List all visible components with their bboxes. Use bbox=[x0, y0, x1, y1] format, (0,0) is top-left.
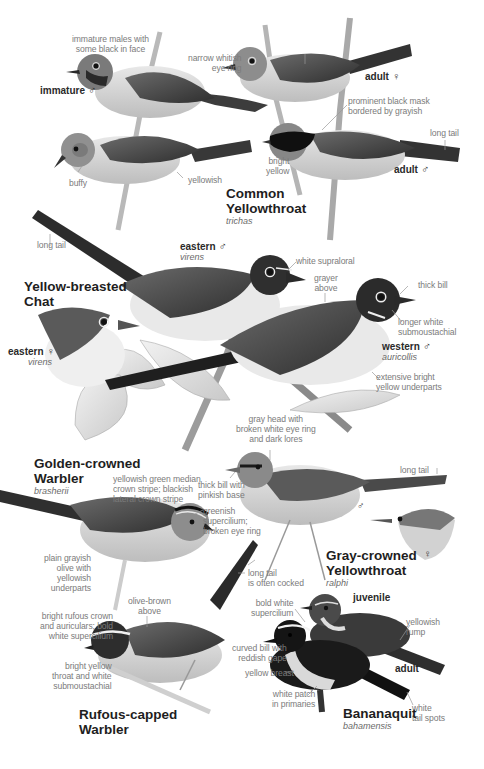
figure-label-gcy-male: ♂ bbox=[357, 500, 365, 511]
annotation-white-supraloral: white supraloral bbox=[296, 256, 355, 266]
annotation-bright-yellow: bright yellow bbox=[266, 156, 289, 176]
annotation-immature-males: immature males with some black in face bbox=[72, 34, 149, 54]
figure-label-immature-male: immature♂ bbox=[40, 84, 96, 96]
field-guide-plate: immature males with some black in face i… bbox=[0, 0, 484, 769]
annotation-extensive-yellow: extensive bright yellow underparts bbox=[376, 372, 442, 392]
annotation-gcy-long-tail: long tail bbox=[400, 465, 429, 475]
figure-label-gcy-female: ♀ bbox=[424, 548, 432, 559]
annotation-black-mask: prominent black mask bordered by grayish bbox=[348, 96, 430, 116]
annotation-yellow-breast: yellow breast bbox=[245, 668, 294, 678]
annotation-curved-bill: curved bill with reddish gape bbox=[232, 643, 287, 663]
annotation-thick-bill: thick bill bbox=[418, 280, 448, 290]
bird-golden-crowned-warbler bbox=[0, 490, 214, 610]
subspecies-eastern-male: virens bbox=[180, 252, 204, 262]
figure-label-eastern-male: eastern♂ bbox=[180, 240, 227, 252]
species-name-common-yellowthroat: Common Yellowthroat trichas bbox=[226, 186, 306, 227]
annotation-bright-yellow-throat: bright yellow throat and white submousta… bbox=[52, 661, 112, 691]
species-name-yellow-breasted-chat: Yellow-breasted Chat bbox=[24, 279, 127, 309]
annotation-rufous-crown: bright rufous crown and auriculars; bold… bbox=[40, 611, 113, 641]
subspecies-eastern-female: virens bbox=[28, 357, 52, 367]
annotation-yellowish-rump: yellowish rump bbox=[406, 617, 440, 637]
species-name-gray-crowned-yellowthroat: Gray-crowned Yellowthroat ralphi bbox=[326, 548, 417, 589]
annotation-narrow-eye-ring: narrow whitish eye ring bbox=[188, 53, 242, 73]
species-name-rufous-capped-warbler: Rufous-capped Warbler bbox=[79, 707, 177, 737]
figure-label-juvenile: juvenile bbox=[353, 592, 390, 603]
subspecies-western-male: auricollis bbox=[382, 352, 417, 362]
figure-label-western-male: western♂ bbox=[382, 340, 431, 352]
annotation-olive-brown-above: olive-brown above bbox=[128, 596, 171, 616]
annotation-plain-grayish-olive: plain grayish olive with yellowish under… bbox=[44, 553, 91, 593]
figure-label-adult-male: adult♂ bbox=[394, 163, 429, 175]
annotation-longer-submoustachial: longer white submoustachial bbox=[398, 317, 456, 337]
figure-label-adult-female: adult♀ bbox=[365, 70, 400, 82]
annotation-yellowish: yellowish bbox=[188, 175, 222, 185]
annotation-white-patch-primaries: white patch in primaries bbox=[272, 689, 315, 709]
annotation-crown-stripe: yellowish green median crown stripe; bla… bbox=[113, 474, 201, 504]
figure-label-eastern-female: eastern♀ bbox=[8, 345, 55, 357]
annotation-cy-long-tail: long tail bbox=[430, 128, 459, 138]
annotation-tail-often-cocked: long tail is often cocked bbox=[248, 568, 304, 588]
annotation-grayer-above: grayer above bbox=[314, 273, 338, 293]
annotation-chat-long-tail: long tail bbox=[37, 240, 66, 250]
bird-common-yellowthroat-immature bbox=[54, 133, 252, 184]
annotation-gray-head: gray head with broken white eye ring and… bbox=[236, 414, 316, 444]
figure-label-adult-bananaquit: adult bbox=[395, 663, 419, 674]
species-name-bananaquit: Bananaquit bahamensis bbox=[343, 706, 417, 732]
annotation-bold-white-supercilium: bold white supercilium bbox=[251, 598, 293, 618]
annotation-greenish-supercilium: greenish supercilium; broken eye ring bbox=[203, 506, 261, 536]
annotation-thick-bill-pinkish: thick bill with pinkish base bbox=[198, 480, 245, 500]
annotation-buffy: buffy bbox=[69, 178, 87, 188]
